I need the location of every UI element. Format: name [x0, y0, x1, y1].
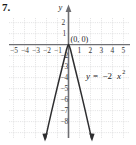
x-tick-label-2: 2 [88, 46, 92, 55]
coordinate-graph: y −5 −4 −3 −2 −1 1 2 3 4 5 2 1 −2 −3 −4 … [0, 0, 136, 145]
parabola-figure: 7. [0, 0, 136, 145]
y-tick-label-1: 1 [62, 29, 66, 38]
x-tick-label-neg2: −2 [43, 46, 51, 55]
y-tick-label-neg6: −6 [60, 95, 68, 104]
equation-variable-x: x [116, 71, 121, 81]
x-tick-label-neg3: −3 [32, 46, 40, 55]
y-tick-label-neg8: −8 [60, 117, 68, 126]
x-tick-label-neg4: −4 [21, 46, 29, 55]
x-tick-label-neg5: −5 [10, 46, 18, 55]
y-axis-arrowhead [66, 5, 72, 13]
y-tick-label-neg7: −7 [60, 106, 68, 115]
vertex-point-label: (0, 0) [71, 35, 89, 44]
equation-exponent: 2 [122, 68, 125, 75]
y-tick-label-2: 2 [61, 18, 65, 27]
equation-coefficient: −2 [103, 71, 113, 81]
y-tick-label-neg5: −5 [60, 84, 68, 93]
x-tick-label-5: 5 [121, 46, 125, 55]
x-tick-label-3: 3 [99, 46, 103, 55]
x-tick-label-4: 4 [110, 46, 114, 55]
x-tick-label-1: 1 [77, 46, 81, 55]
y-axis-label: y [58, 2, 63, 12]
y-tick-label-neg4: −4 [60, 73, 68, 82]
equation-equals-sign: = [93, 71, 98, 81]
equation-variable-y: y [85, 71, 90, 81]
